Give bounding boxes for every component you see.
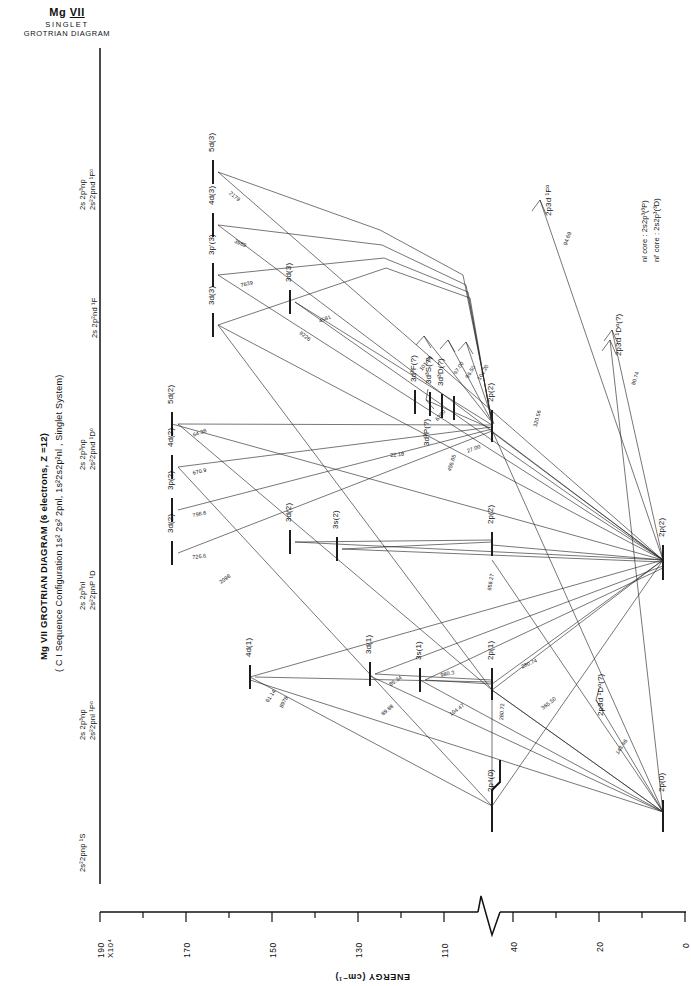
level-label: 2p(0) [657,773,666,792]
level-label: 3d(3) [207,286,216,305]
level-label: 3d³D(?) [436,358,445,386]
level-label: 3d(2) [166,514,175,533]
level-label: 3s(1) [414,641,423,660]
level-label: 2p(1) [486,641,495,660]
axis-exponent: X10⁴ [106,939,115,958]
tick-label: 150 [268,942,278,958]
level-label: 2p(2) [486,383,495,402]
level-label: 3d(3) [284,263,293,282]
axes-and-lines [0,0,691,986]
tick-label: 20 [595,942,605,952]
level-label: 3p'(3) [207,234,216,255]
level-label: 2p3d ¹Fᵒ [544,185,553,216]
level-label: 3d³P(?) [422,419,431,446]
level-label: 2p(2) [486,505,495,524]
level-label: 2p(2) [657,518,666,537]
level-label: 3p(2) [166,471,175,490]
axis-ticks [100,912,685,922]
grotrian-diagram-canvas: Mg VII SINGLET GROTRIAN DIAGRAM Mg VII G… [0,0,691,986]
transition-lines [172,172,663,812]
tick-label: 170 [182,942,192,958]
level-label: 2p3d ¹Dᵒ(?) [614,314,623,356]
tick-label: 0 [681,943,691,948]
level-label: 3d³F(?) [409,355,418,382]
level-label: 5d(2) [166,385,175,404]
tick-label: 190 [96,942,106,958]
level-label: 4d(2) [166,428,175,447]
level-label: 4d(3) [207,186,216,205]
tick-label: 40 [509,942,519,952]
axis-break-symbol [478,896,500,935]
level-label: 4d(1) [244,638,253,657]
level-label: 3s(2) [331,510,340,529]
tick-label: 130 [354,942,364,958]
level-label: 2p⁴(0) [486,769,495,792]
level-label: 3d(2) [284,503,293,522]
wavelength-label: 280.72 [498,703,505,720]
level-label: 5d(3) [207,133,216,152]
tick-label: 110 [440,943,450,958]
level-label: 3d(1) [364,635,373,654]
level-label: 2p3d ¹Dᵒ(?) [596,674,605,716]
axis-title: ENERGY (cm⁻¹) [335,972,410,982]
